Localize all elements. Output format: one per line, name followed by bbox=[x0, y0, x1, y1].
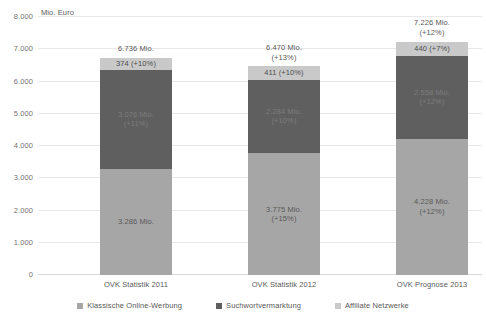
y-axis-tick-label: 8.000 bbox=[14, 12, 33, 21]
bar-group[interactable]: 3.286 Mio.3.076 Mio. (+11%)374 (+10%) bbox=[100, 58, 172, 275]
plot-area: 8.0007.0006.0005.0004.0003.0002.0001.000… bbox=[38, 17, 482, 275]
bar-total-label: 6.470 Mio. (+13%) bbox=[229, 43, 339, 63]
bar-segment-value-label: 374 (+10%) bbox=[116, 59, 156, 68]
legend-item[interactable]: Klassische Online-Werbung bbox=[77, 301, 182, 310]
legend-item[interactable]: Suchwortvermarktung bbox=[216, 301, 301, 310]
y-axis-tick-label: 0 bbox=[29, 270, 33, 279]
legend-color-swatch bbox=[77, 303, 83, 309]
x-axis-category-label: OVK Statistik 2011 bbox=[66, 280, 206, 289]
bar-total-label: 6.736 Mio. bbox=[81, 44, 191, 54]
bar-segment-value-label: 2.558 Mio. (+12%) bbox=[414, 88, 450, 107]
legend-color-swatch bbox=[335, 303, 341, 309]
bar-segment[interactable]: 2.558 Mio. (+12%) bbox=[396, 56, 468, 138]
bar-segment-value-label: 3.775 Mio. (+15%) bbox=[266, 205, 302, 224]
bar-group[interactable]: 4.228 Mio. (+12%)2.558 Mio. (+12%)440 (+… bbox=[396, 42, 468, 275]
x-axis-category-label: OVK Prognose 2013 bbox=[362, 280, 486, 289]
y-axis-tick-label: 1.000 bbox=[14, 237, 33, 246]
legend-color-swatch bbox=[216, 303, 222, 309]
y-axis-tick-label: 4.000 bbox=[14, 141, 33, 150]
legend-label: Klassische Online-Werbung bbox=[87, 301, 182, 310]
bar-segment[interactable]: 374 (+10%) bbox=[100, 58, 172, 70]
bar-segment-value-label: 411 (+10%) bbox=[264, 68, 303, 77]
x-axis-category-labels: OVK Statistik 2011OVK Statistik 2012OVK … bbox=[38, 280, 482, 294]
y-axis-tick-label: 7.000 bbox=[14, 44, 33, 53]
bar-segment-value-label: 3.076 Mio. (+11%) bbox=[118, 110, 154, 129]
bar-segment[interactable]: 4.228 Mio. (+12%) bbox=[396, 139, 468, 275]
bar-segment-value-label: 4.228 Mio. (+12%) bbox=[414, 197, 450, 216]
y-axis-tick-label: 2.000 bbox=[14, 205, 33, 214]
bar-segment[interactable]: 440 (+7%) bbox=[396, 42, 468, 56]
chart-legend: Klassische Online-WerbungSuchwortvermark… bbox=[0, 301, 486, 310]
bar-segment[interactable]: 3.775 Mio. (+15%) bbox=[248, 153, 320, 275]
bar-group[interactable]: 3.775 Mio. (+15%)2.284 Mio. (+10%)411 (+… bbox=[248, 66, 320, 275]
bar-total-label: 7.226 Mio. (+12%) bbox=[377, 18, 486, 38]
bar-segment[interactable]: 411 (+10%) bbox=[248, 66, 320, 79]
legend-item[interactable]: Affiliate Netzwerke bbox=[335, 301, 409, 310]
bar-series-container: 6.736 Mio.3.286 Mio.3.076 Mio. (+11%)374… bbox=[38, 17, 482, 275]
stacked-bar-chart: Mio. Euro 8.0007.0006.0005.0004.0003.000… bbox=[0, 0, 486, 319]
bar-segment-value-label: 3.286 Mio. bbox=[118, 217, 154, 226]
bar-segment-value-label: 440 (+7%) bbox=[414, 44, 450, 53]
legend-label: Suchwortvermarktung bbox=[226, 301, 301, 310]
y-axis-tick-label: 6.000 bbox=[14, 76, 33, 85]
bar-segment[interactable]: 2.284 Mio. (+10%) bbox=[248, 80, 320, 154]
legend-label: Affiliate Netzwerke bbox=[345, 301, 409, 310]
y-axis-tick-label: 3.000 bbox=[14, 173, 33, 182]
x-axis-category-label: OVK Statistik 2012 bbox=[214, 280, 354, 289]
bar-segment[interactable]: 3.076 Mio. (+11%) bbox=[100, 70, 172, 169]
bar-segment-value-label: 2.284 Mio. (+10%) bbox=[266, 107, 302, 126]
y-axis-tick-label: 5.000 bbox=[14, 108, 33, 117]
bar-segment[interactable]: 3.286 Mio. bbox=[100, 169, 172, 275]
